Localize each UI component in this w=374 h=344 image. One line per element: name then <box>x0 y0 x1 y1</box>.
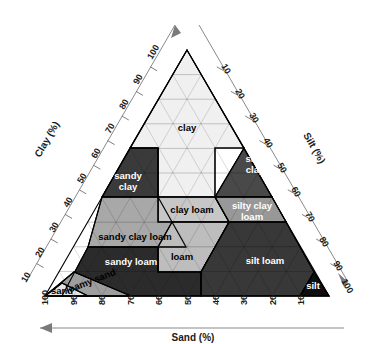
sand-tick-70: 70 <box>126 295 136 305</box>
clay-axis-arrow <box>171 25 181 38</box>
silt-tick-70: 70 <box>303 210 317 224</box>
clay-tick-60: 60 <box>89 146 103 160</box>
clay-tick-50: 50 <box>75 171 89 185</box>
label-sandy-loam: sandy loam <box>105 256 157 267</box>
clay-tick-20: 20 <box>33 245 47 259</box>
label-silty-clay-line1: siltyclay <box>245 153 265 175</box>
clay-axis-label: Clay (%) <box>32 119 61 159</box>
label-loam: loam <box>171 251 193 262</box>
sand-tick-50: 50 <box>183 295 193 305</box>
sand-tick-10: 10 <box>296 295 306 305</box>
sand-tick-40: 40 <box>211 295 221 305</box>
silt-tick-100: 100 <box>339 277 355 295</box>
sand-ticks <box>45 296 301 302</box>
sand-tick-60: 60 <box>154 295 164 305</box>
silt-tick-50: 50 <box>275 161 289 175</box>
silt-axis-label: Silt (%) <box>301 131 327 166</box>
label-clay: clay <box>178 122 197 133</box>
ternary-diagram-svg: 100 90 80 70 60 50 40 30 20 10 Clay (%) <box>0 0 374 344</box>
label-sandy-clay-loam: sandy clay loam <box>98 231 171 242</box>
clay-tick-40: 40 <box>61 195 75 209</box>
label-silt-loam: silt loam <box>246 255 285 266</box>
sand-tick-90: 90 <box>69 295 79 305</box>
axis-sand: 100 90 80 70 60 50 40 30 20 10 Sand (%) <box>40 290 344 343</box>
sand-axis-arrow <box>40 323 52 333</box>
label-clay-loam: clay loam <box>170 204 213 215</box>
sand-tick-80: 80 <box>97 295 107 305</box>
clay-tick-30: 30 <box>47 220 61 234</box>
silt-tick-60: 60 <box>289 185 303 199</box>
silt-tick-40: 40 <box>261 136 275 150</box>
sand-tick-30: 30 <box>239 295 249 305</box>
clay-tick-70: 70 <box>103 121 117 135</box>
label-sand: sand <box>51 285 73 296</box>
clay-tick-90: 90 <box>131 72 145 86</box>
sand-tick-100: 100 <box>40 290 50 305</box>
silt-tick-80: 80 <box>317 235 331 249</box>
sand-axis-label: Sand (%) <box>172 332 215 343</box>
silt-tick-90: 90 <box>331 259 345 273</box>
clay-tick-100: 100 <box>145 43 161 61</box>
soil-texture-triangle-figure: 100 90 80 70 60 50 40 30 20 10 Clay (%) <box>0 0 374 344</box>
clay-tick-10: 10 <box>19 270 33 284</box>
sand-tick-20: 20 <box>268 295 278 305</box>
clay-tick-80: 80 <box>117 97 131 111</box>
silt-tick-30: 30 <box>247 111 261 125</box>
silt-tick-20: 20 <box>233 87 247 101</box>
label-silt: silt <box>306 280 321 291</box>
